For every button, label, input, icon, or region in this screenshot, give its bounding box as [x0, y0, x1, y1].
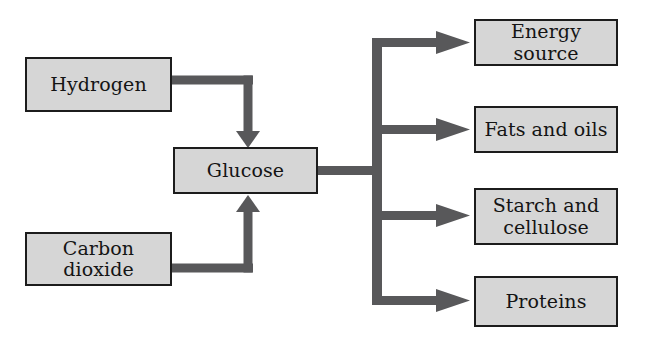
- node-carbon-dioxide: Carbon dioxide: [25, 232, 172, 286]
- node-glucose: Glucose: [173, 147, 318, 194]
- connector-glucose-to-proteins: [372, 289, 470, 312]
- node-energy-source: Energy source: [474, 19, 618, 66]
- node-starch-and-cellulose-label: Starch and cellulose: [489, 195, 604, 238]
- node-fats-and-oils: Fats and oils: [474, 106, 618, 153]
- connector-glucose-to-starch-and-cellulose: [372, 204, 470, 227]
- connector-glucose-to-energy-source: [372, 31, 470, 54]
- node-fats-and-oils-label: Fats and oils: [480, 119, 611, 140]
- node-hydrogen-label: Hydrogen: [46, 74, 150, 95]
- node-energy-source-label: Energy source: [476, 21, 616, 64]
- node-starch-and-cellulose: Starch and cellulose: [474, 188, 618, 245]
- node-proteins-label: Proteins: [501, 291, 590, 312]
- node-hydrogen: Hydrogen: [25, 57, 172, 112]
- node-proteins: Proteins: [474, 276, 618, 327]
- node-glucose-label: Glucose: [203, 160, 288, 181]
- node-carbon-dioxide-label: Carbon dioxide: [59, 238, 138, 281]
- connector-hydrogen-to-glucose: [171, 76, 260, 149]
- connector-carbon-dioxide-to-glucose: [171, 195, 260, 273]
- flowchart-diagram: Hydrogen Carbon dioxide Glucose Energy s…: [0, 0, 656, 356]
- connector-glucose-to-fats-and-oils: [372, 118, 470, 141]
- connector-distribution-trunk: [372, 38, 382, 305]
